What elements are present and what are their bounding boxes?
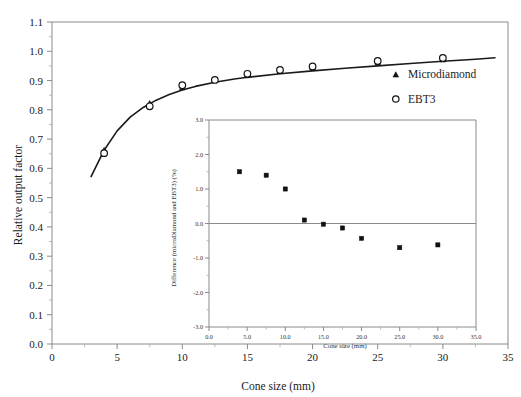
- main-y-tick-label: 0.2: [29, 279, 43, 291]
- inset-x-tick-label: 20.0: [356, 333, 367, 340]
- data-point-difference: [398, 246, 402, 250]
- main-x-tick-label: 10: [177, 351, 189, 363]
- inset-y-tick-label: -3.0: [193, 323, 203, 330]
- main-x-tick-label: 5: [114, 351, 120, 363]
- main-y-tick-label: 0.3: [29, 250, 43, 262]
- legend-label-microdiamond: Microdiamond: [408, 68, 477, 80]
- data-point-ebt3: [309, 63, 316, 70]
- inset-y-tick-label: 3.0: [195, 116, 203, 123]
- legend-label-ebt3: EBT3: [408, 93, 436, 105]
- main-x-axis-label: Cone size (mm): [241, 380, 315, 393]
- data-point-ebt3: [179, 82, 186, 89]
- inset-y-tick-label: 1.0: [195, 185, 203, 192]
- data-point-difference: [436, 243, 440, 247]
- inset-x-tick-label: 10.0: [280, 333, 291, 340]
- data-point-difference: [321, 222, 325, 226]
- main-x-tick-label: 15: [242, 351, 254, 363]
- data-point-difference: [359, 236, 363, 240]
- main-x-tick-label: 25: [372, 351, 384, 363]
- main-y-tick-label: 0.7: [29, 133, 43, 145]
- data-point-ebt3: [101, 150, 108, 157]
- data-point-ebt3: [212, 77, 219, 84]
- data-point-ebt3: [440, 55, 447, 62]
- inset-x-tick-label: 35.0: [471, 333, 482, 340]
- main-y-tick-label: 0.9: [29, 75, 43, 87]
- main-x-tick-label: 0: [49, 351, 55, 363]
- main-x-tick-label: 30: [437, 351, 449, 363]
- main-y-tick-label: 0.0: [29, 338, 43, 350]
- inset-x-tick-label: 5.0: [243, 333, 251, 340]
- data-point-ebt3: [146, 103, 153, 110]
- data-point-difference: [302, 218, 306, 222]
- inset-x-tick-label: 0.0: [205, 333, 213, 340]
- main-y-axis-label: Relative output factor: [12, 145, 25, 245]
- main-y-tick-label: 1.0: [29, 45, 43, 57]
- main-y-tick-label: 0.5: [29, 192, 43, 204]
- data-point-difference: [264, 173, 268, 177]
- data-point-ebt3: [244, 71, 251, 78]
- inset-y-tick-label: -2.0: [193, 289, 203, 296]
- inset-x-tick-label: 30.0: [432, 333, 443, 340]
- inset-y-tick-label: 2.0: [195, 151, 203, 158]
- inset-y-tick-label: 0.0: [195, 220, 203, 227]
- open-circle-icon: [393, 96, 399, 102]
- inset-y-tick-label: -1.0: [193, 254, 203, 261]
- inset-x-tick-label: 15.0: [318, 333, 329, 340]
- main-x-tick-label: 35: [503, 351, 515, 363]
- inset-x-tick-label: 25.0: [394, 333, 405, 340]
- chart-svg: 0.00.10.20.30.40.50.60.70.80.91.01.10510…: [0, 0, 521, 397]
- data-point-difference: [340, 226, 344, 230]
- main-x-tick-label: 20: [307, 351, 319, 363]
- inset-x-axis-label: Cone size (mm): [323, 342, 366, 350]
- inset-y-axis-label: Difference (microDiamond and EBT3) (%): [170, 169, 178, 287]
- data-point-ebt3: [277, 67, 284, 74]
- main-y-tick-label: 0.4: [29, 221, 43, 233]
- main-y-tick-label: 1.1: [29, 16, 43, 28]
- main-y-tick-label: 0.6: [29, 162, 43, 174]
- data-point-difference: [283, 187, 287, 191]
- figure-container: 0.00.10.20.30.40.50.60.70.80.91.01.10510…: [0, 0, 521, 397]
- data-point-ebt3: [374, 58, 381, 65]
- main-y-tick-label: 0.1: [29, 309, 43, 321]
- data-point-difference: [237, 170, 241, 174]
- main-y-tick-label: 0.8: [29, 104, 43, 116]
